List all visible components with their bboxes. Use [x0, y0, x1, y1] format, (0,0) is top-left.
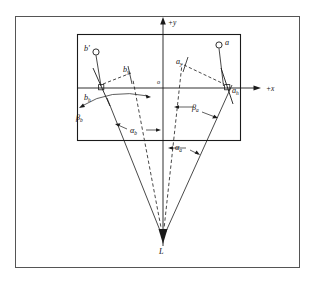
object-point-a-label: a [225, 38, 229, 47]
a-vertical-drop-line [219, 48, 224, 86]
alpha-b-arrowhead-left [115, 123, 121, 127]
a-y-dashed-connector [184, 65, 224, 84]
object-point-b-label: b' [84, 44, 90, 53]
ray-geometry-diagram: +y +x o a b' ah bh ay by βa βb [0, 0, 315, 286]
angle-alpha-b-label: αb [130, 126, 137, 136]
lens-point-marker [159, 229, 168, 244]
beta-a-arrowhead-left [174, 105, 179, 109]
y-axis-arrowhead [160, 17, 166, 25]
x-axis-arrowhead [254, 85, 262, 90]
ray-lens-to-b-h [107, 98, 163, 238]
coordinate-a-y-label: ay [176, 57, 183, 67]
angle-beta-a-label: βa [191, 103, 199, 113]
x-axis-label: +x [266, 84, 275, 93]
angle-alpha-a-label: αa [175, 143, 182, 153]
y-axis-label: +y [168, 18, 177, 27]
alpha-a-arrowhead-left [168, 146, 173, 150]
tilted-photo-line-b [93, 68, 110, 106]
beta-b-arrowhead-right [145, 95, 151, 99]
coordinate-b-y-label: by [123, 65, 130, 75]
b-vertical-drop-line [96, 55, 101, 86]
alpha-b-arrowhead-right [156, 128, 161, 132]
a-y-tick [183, 57, 188, 72]
object-point-a-circle [216, 42, 222, 48]
lens-point-label: L [158, 247, 164, 256]
figure-container: +y +x o a b' ah bh ay by βa βb [0, 0, 315, 286]
beta-b-arrowhead-left [79, 103, 85, 108]
ray-lens-to-b-y-dashed [133, 80, 163, 238]
beta-b-arc [82, 94, 148, 106]
origin-label: o [157, 78, 160, 85]
image-point-b-h-label: bh [84, 93, 91, 103]
image-point-a-h-label: ah [232, 86, 239, 96]
angle-beta-b-label: βb [75, 113, 83, 123]
beta-a-measure-right-arrow [202, 112, 215, 117]
outer-frame [16, 17, 300, 268]
object-point-b-circle [93, 49, 99, 55]
